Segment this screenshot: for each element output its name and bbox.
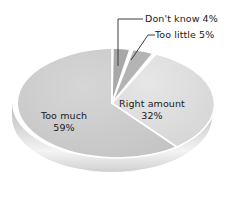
- pie-label-right-amount-name: Right amount: [110, 98, 194, 110]
- pie-label-too-little: Too little5%: [155, 29, 214, 40]
- pie-chart: Don't know4% Too little5% Too much 59% R…: [0, 0, 241, 199]
- pie-label-too-much-name: Too much: [26, 110, 102, 122]
- pie-label-too-much: Too much 59%: [26, 110, 102, 134]
- pie-label-too-much-value: 59%: [26, 122, 102, 134]
- pie-label-right-amount: Right amount 32%: [110, 98, 194, 122]
- pie-label-dont-know-name: Don't know: [145, 13, 200, 24]
- pie-label-right-amount-value: 32%: [110, 110, 194, 122]
- pie-label-too-little-name: Too little: [155, 29, 196, 40]
- pie-label-too-little-value: 5%: [199, 29, 214, 40]
- pie-label-dont-know: Don't know4%: [145, 13, 218, 24]
- pie-label-dont-know-value: 4%: [203, 13, 218, 24]
